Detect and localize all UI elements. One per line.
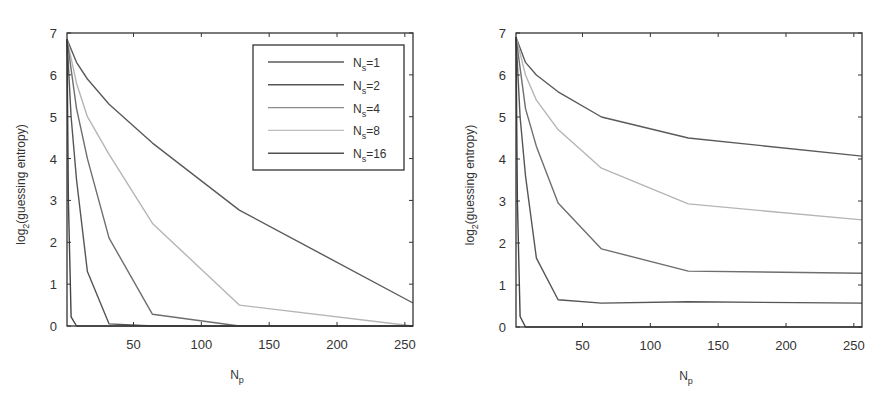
plot-frame <box>516 33 862 327</box>
legend-label-rest: =1 <box>366 56 380 70</box>
y-tick-label: 7 <box>499 26 506 41</box>
x-axis-label-main: N <box>230 368 239 382</box>
y-tick-label: 0 <box>499 320 506 335</box>
x-tick-label: 150 <box>707 338 729 353</box>
y-tick-label: 0 <box>50 319 57 334</box>
series-line-ns-16 <box>516 37 862 327</box>
x-axis-label-sub: p <box>688 376 693 386</box>
y-axis-label-main: log <box>14 229 28 245</box>
y-tick-label: 3 <box>50 193 57 208</box>
x-tick-label: 50 <box>126 337 140 352</box>
series-line-ns-8 <box>516 37 862 303</box>
legend-label-rest: =8 <box>366 124 380 138</box>
legend-label-main: N <box>353 147 362 161</box>
y-axis-label: log2(guessing entropy) <box>14 124 31 244</box>
y-tick-label: 5 <box>50 110 57 125</box>
x-axis-label: Np <box>679 369 693 386</box>
legend-label-rest: =4 <box>366 102 380 116</box>
legend-label-rest: =2 <box>366 79 380 93</box>
x-tick-label: 200 <box>326 337 348 352</box>
y-axis-label-rest: (guessing entropy) <box>463 125 477 224</box>
x-axis-label: Np <box>230 368 244 385</box>
legend-label-main: N <box>353 124 362 138</box>
legend: Ns=1Ns=2Ns=4Ns=8Ns=16 <box>253 45 404 170</box>
x-tick-label: 200 <box>775 338 797 353</box>
legend-label-main: N <box>353 102 362 116</box>
y-tick-label: 2 <box>50 235 57 250</box>
legend-label-main: N <box>353 56 362 70</box>
x-tick-label: 100 <box>639 338 661 353</box>
x-tick-label: 100 <box>190 337 212 352</box>
y-tick-label: 1 <box>499 278 506 293</box>
right-chart: 5010015020025001234567Nplog2(guessing en… <box>441 0 883 398</box>
y-axis-label-rest: (guessing entropy) <box>14 124 28 223</box>
y-tick-label: 3 <box>499 194 506 209</box>
y-tick-label: 6 <box>499 68 506 83</box>
left-chart: 5010015020025001234567Nplog2(guessing en… <box>0 0 441 398</box>
y-axis-label: log2(guessing entropy) <box>463 125 480 245</box>
series-line-ns-2 <box>516 37 862 220</box>
y-axis-label-main: log <box>463 229 477 245</box>
x-tick-label: 250 <box>394 337 416 352</box>
right-chart-panel: 5010015020025001234567Nplog2(guessing en… <box>441 0 882 398</box>
y-tick-label: 4 <box>50 152 57 167</box>
y-tick-label: 5 <box>499 110 506 125</box>
y-tick-label: 6 <box>50 68 57 83</box>
y-tick-label: 1 <box>50 277 57 292</box>
series-group <box>516 37 862 327</box>
legend-label-main: N <box>353 79 362 93</box>
series-line-ns-4 <box>516 37 862 273</box>
y-tick-label: 2 <box>499 236 506 251</box>
x-tick-label: 250 <box>843 338 865 353</box>
y-tick-label: 4 <box>499 152 506 167</box>
x-tick-label: 50 <box>575 338 589 353</box>
legend-label-rest: =16 <box>366 147 387 161</box>
left-chart-panel: 5010015020025001234567Nplog2(guessing en… <box>0 0 441 398</box>
x-tick-label: 150 <box>258 337 280 352</box>
y-tick-label: 7 <box>50 26 57 41</box>
x-axis-label-sub: p <box>239 375 244 385</box>
x-axis-label-main: N <box>679 369 688 383</box>
